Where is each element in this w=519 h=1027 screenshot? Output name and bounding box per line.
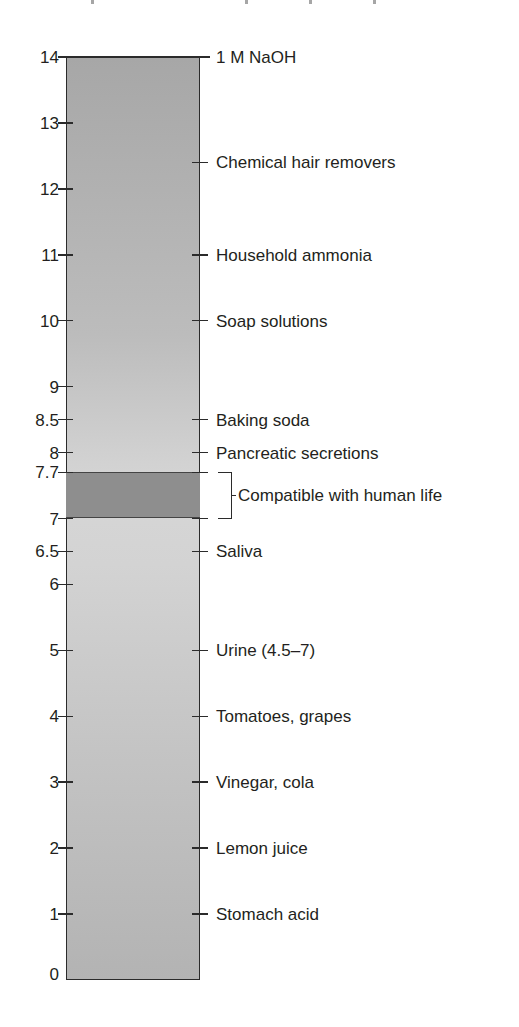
top-edge-line [58,56,210,58]
tick-label-12: 12 [40,180,59,197]
bracket-pointer [231,495,236,497]
band-boundary-tick [192,472,208,474]
band-label: Compatible with human life [238,487,442,504]
annotation-label: Saliva [216,543,262,560]
tick-label-10: 10 [40,312,59,329]
right-tick [192,847,208,849]
annotation-label: Pancreatic secretions [216,444,379,461]
annotation-label: Lemon juice [216,840,308,857]
tick-label-0: 0 [50,966,59,983]
left-tick [58,386,73,388]
tick-label-7-7: 7.7 [35,464,59,481]
left-tick [58,551,73,553]
cropped-text-remnant [0,0,519,6]
right-tick [192,551,208,553]
annotation-label: Urine (4.5–7) [216,642,315,659]
right-tick [192,320,208,322]
annotation-label: Stomach acid [216,906,319,923]
tick-label-1: 1 [50,906,59,923]
left-tick [58,188,73,190]
right-tick [192,913,208,915]
tick-label-11: 11 [41,246,59,263]
tick-label-6: 6 [50,576,59,593]
annotation-label: Tomatoes, grapes [216,708,351,725]
right-tick [192,452,208,454]
human-life-band [66,472,200,518]
annotation-label: Soap solutions [216,312,328,329]
right-tick [192,781,208,783]
left-tick [58,472,73,474]
right-tick [192,254,208,256]
left-tick [58,122,73,124]
tick-label-3: 3 [50,774,59,791]
tick-label-14: 14 [40,49,59,66]
right-tick [192,56,208,58]
ph-bar [66,57,200,980]
tick-label-8-5: 8.5 [35,411,59,428]
right-tick [192,716,208,718]
annotation-label: Chemical hair removers [216,154,396,171]
tick-label-7: 7 [50,510,59,527]
tick-label-6-5: 6.5 [35,543,59,560]
tick-label-5: 5 [50,642,59,659]
annotation-label: Vinegar, cola [216,774,314,791]
crop-mark [309,0,312,4]
left-tick [58,452,73,454]
crop-mark [91,0,94,4]
left-tick [58,716,73,718]
left-tick [58,254,73,256]
left-tick [58,847,73,849]
annotation-label: 1 M NaOH [216,49,296,66]
crop-mark [245,0,248,4]
annotation-label: Baking soda [216,411,310,428]
left-tick [58,781,73,783]
annotation-label: Household ammonia [216,246,372,263]
left-tick [58,419,73,421]
tick-label-9: 9 [50,378,59,395]
ph-scale-diagram: 01234566.577.788.5910111213141 M NaOHChe… [0,0,519,1027]
human-life-bracket [218,472,232,520]
left-tick [58,584,73,586]
band-boundary-tick [192,518,208,520]
right-tick [192,419,208,421]
tick-label-13: 13 [40,114,59,131]
tick-label-8: 8 [50,444,59,461]
left-tick [58,320,73,322]
right-tick [192,650,208,652]
crop-mark [373,0,376,4]
right-tick [192,162,208,164]
tick-label-4: 4 [50,708,59,725]
left-tick [58,913,73,915]
left-tick [58,650,73,652]
tick-label-2: 2 [50,840,59,857]
left-tick [58,518,73,520]
